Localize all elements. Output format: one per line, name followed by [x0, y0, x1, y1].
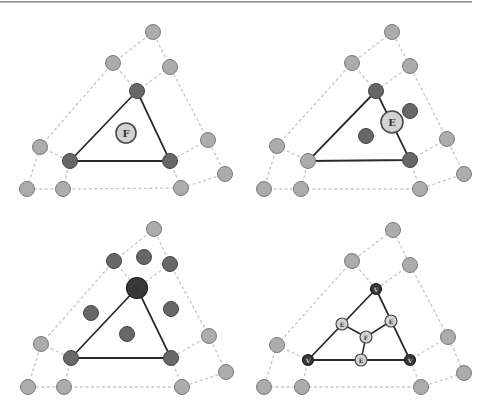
panel-edge: E: [257, 25, 472, 197]
mesh-vertices: [21, 222, 234, 395]
subdivision-diagram: F: [0, 0, 492, 414]
triangle-face: [71, 288, 171, 358]
panel-vertex: V: [21, 222, 234, 395]
dashed-mesh-edges: [28, 229, 226, 387]
face-point: F: [116, 123, 136, 143]
vertex-point: V: [127, 278, 148, 299]
new-vertex-points: V V V: [303, 284, 416, 366]
edge-point: E: [381, 111, 403, 133]
svg-text:V: V: [407, 357, 413, 364]
new-face-point: F: [360, 331, 372, 343]
svg-text:F: F: [122, 128, 129, 139]
panel-face: F: [20, 25, 233, 197]
svg-text:E: E: [389, 318, 394, 325]
mesh-vertices: [20, 25, 233, 197]
panel-result: V V V E E E F: [257, 223, 472, 395]
svg-text:E: E: [388, 117, 396, 128]
svg-text:V: V: [373, 286, 379, 293]
svg-text:E: E: [359, 357, 364, 364]
svg-text:V: V: [305, 357, 311, 364]
svg-text:E: E: [340, 321, 345, 328]
svg-text:V: V: [132, 283, 141, 294]
dashed-mesh-edges: [264, 32, 464, 189]
svg-text:F: F: [364, 334, 369, 341]
mesh-vertices: [257, 223, 472, 395]
mesh-vertices: [257, 25, 472, 197]
dashed-mesh-edges: [27, 32, 225, 189]
